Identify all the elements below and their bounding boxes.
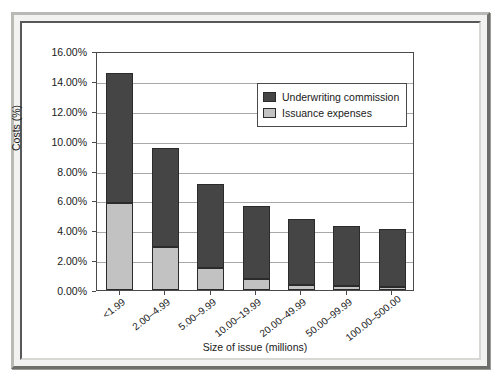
bar-segment-issuance-expenses[interactable] <box>106 203 133 290</box>
bar-segment-issuance-expenses[interactable] <box>152 247 179 290</box>
y-tick-label: 10.00% <box>17 137 87 148</box>
bar-segment-underwriting-commission[interactable] <box>106 73 133 204</box>
y-tick-label: 4.00% <box>17 226 87 237</box>
bar-group[interactable] <box>152 51 179 290</box>
x-tick-mark <box>391 291 392 295</box>
y-tick-label: 16.00% <box>17 47 87 58</box>
legend-swatch-icon <box>263 108 276 118</box>
x-tick-mark <box>119 291 120 295</box>
chart-legend: Underwriting commissionIssuance expenses <box>257 83 407 127</box>
x-axis-title: Size of issue (millions) <box>96 341 414 353</box>
bar-segment-underwriting-commission[interactable] <box>243 206 270 278</box>
bar-segment-underwriting-commission[interactable] <box>333 226 360 286</box>
y-tick-label: 6.00% <box>17 196 87 207</box>
x-tick-mark <box>346 291 347 295</box>
x-tick-mark <box>210 291 211 295</box>
bar-segment-issuance-expenses[interactable] <box>197 268 224 290</box>
bar-group[interactable] <box>106 51 133 290</box>
stacked-bar-chart: Costs (%) 0.00%2.00%4.00%6.00%8.00%10.00… <box>22 23 479 358</box>
y-tick-label: 0.00% <box>17 286 87 297</box>
figure-frame: Costs (%) 0.00%2.00%4.00%6.00%8.00%10.00… <box>11 12 490 369</box>
legend-item[interactable]: Underwriting commission <box>263 89 399 105</box>
legend-label: Underwriting commission <box>282 91 399 103</box>
y-tick-label: 12.00% <box>17 107 87 118</box>
bar-group[interactable] <box>197 51 224 290</box>
y-tick-label: 2.00% <box>17 256 87 267</box>
y-tick-mark <box>92 291 96 292</box>
bar-segment-underwriting-commission[interactable] <box>288 219 315 285</box>
figure-inner-panel: Costs (%) 0.00%2.00%4.00%6.00%8.00%10.00… <box>20 21 481 360</box>
bar-segment-issuance-expenses[interactable] <box>243 279 270 290</box>
bar-segment-underwriting-commission[interactable] <box>152 148 179 247</box>
x-tick-mark <box>164 291 165 295</box>
bar-segment-issuance-expenses[interactable] <box>288 285 315 290</box>
y-tick-label: 14.00% <box>17 77 87 88</box>
legend-item[interactable]: Issuance expenses <box>263 105 399 121</box>
y-tick-label: 8.00% <box>17 167 87 178</box>
x-tick-mark <box>255 291 256 295</box>
bar-segment-issuance-expenses[interactable] <box>333 286 360 290</box>
legend-label: Issuance expenses <box>282 107 372 119</box>
bar-segment-underwriting-commission[interactable] <box>197 184 224 268</box>
x-tick-mark <box>300 291 301 295</box>
bar-segment-underwriting-commission[interactable] <box>379 229 406 287</box>
legend-swatch-icon <box>263 92 276 102</box>
bar-segment-issuance-expenses[interactable] <box>379 287 406 290</box>
